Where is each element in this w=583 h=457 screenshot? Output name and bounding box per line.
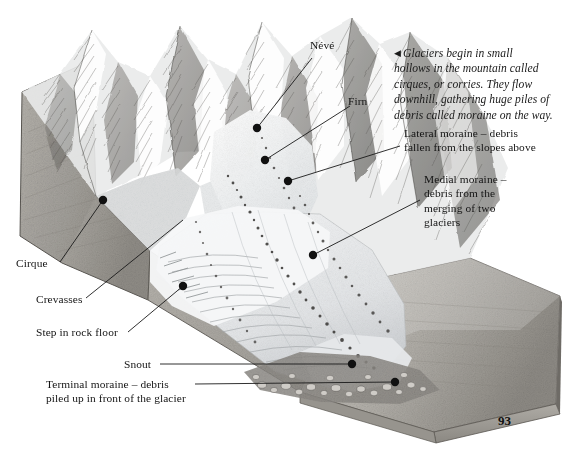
dot-terminal-moraine xyxy=(391,378,399,386)
label-terminal-moraine: Terminal moraine – debris piled up in fr… xyxy=(46,377,186,406)
label-firn: Firn xyxy=(348,94,367,108)
dot-crevasses xyxy=(179,282,187,290)
label-neve: Névé xyxy=(310,38,334,52)
dot-snout xyxy=(348,360,356,368)
book-page: ◀Glaciers begin in small hollows in the … xyxy=(0,0,583,457)
label-step-in-rock-floor: Step in rock floor xyxy=(36,325,118,339)
page-number: 93 xyxy=(498,413,511,429)
caption-marker-icon: ◀ xyxy=(394,48,403,58)
intro-caption: ◀Glaciers begin in small hollows in the … xyxy=(394,30,576,124)
intro-caption-text: Glaciers begin in small hollows in the m… xyxy=(394,47,553,122)
dot-lateral-moraine xyxy=(284,177,292,185)
dot-medial-moraine xyxy=(309,251,317,259)
label-lateral-moraine: Lateral moraine – debris fallen from the… xyxy=(404,126,536,155)
dot-neve xyxy=(253,124,261,132)
dot-firn xyxy=(261,156,269,164)
dot-cirque xyxy=(99,196,107,204)
label-cirque: Cirque xyxy=(16,256,48,270)
label-crevasses: Crevasses xyxy=(36,292,82,306)
label-snout: Snout xyxy=(124,357,151,371)
label-medial-moraine: Medial moraine – debris from the merging… xyxy=(424,172,507,230)
